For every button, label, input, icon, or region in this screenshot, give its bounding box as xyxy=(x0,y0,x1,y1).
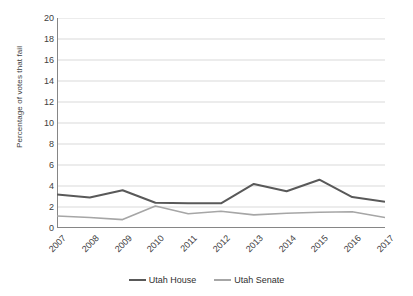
chart-legend: Utah House Utah Senate xyxy=(0,272,413,288)
x-tick-label: 2012 xyxy=(194,233,232,271)
plot-area xyxy=(57,18,385,228)
x-tick-label: 2007 xyxy=(30,233,68,271)
legend-label: Utah House xyxy=(149,275,197,285)
legend-label: Utah Senate xyxy=(234,275,284,285)
x-tick-label: 2014 xyxy=(259,233,297,271)
legend-swatch-icon xyxy=(214,279,231,281)
line-chart: Percentage of votes that fail 20 18 16 1… xyxy=(0,0,413,296)
y-tick-label: 12 xyxy=(30,98,54,107)
series-line-utah-senate xyxy=(57,206,385,220)
series-line-utah-house xyxy=(57,180,385,204)
y-axis-title: Percentage of votes that fail xyxy=(9,0,31,202)
x-tick-label: 2009 xyxy=(95,233,133,271)
y-tick-label: 18 xyxy=(30,35,54,44)
x-tick-label: 2017 xyxy=(358,233,396,271)
gridlines xyxy=(57,18,385,228)
legend-swatch-icon xyxy=(129,279,146,281)
y-tick-label: 6 xyxy=(30,161,54,170)
legend-item-utah-senate[interactable]: Utah Senate xyxy=(214,275,284,285)
y-tick-label: 10 xyxy=(30,119,54,128)
x-tick-label: 2010 xyxy=(128,233,166,271)
y-tick-label: 20 xyxy=(30,14,54,23)
x-tick-label: 2016 xyxy=(325,233,363,271)
x-tick-label: 2015 xyxy=(292,233,330,271)
y-tick-label: 16 xyxy=(30,56,54,65)
x-tick-label: 2013 xyxy=(227,233,265,271)
x-tick-label: 2008 xyxy=(63,233,101,271)
legend-item-utah-house[interactable]: Utah House xyxy=(129,275,197,285)
y-tick-label: 4 xyxy=(30,182,54,191)
y-tick-label: 2 xyxy=(30,203,54,212)
plot-svg xyxy=(57,18,385,228)
y-tick-label: 14 xyxy=(30,77,54,86)
y-tick-label: 8 xyxy=(30,140,54,149)
x-tick-label: 2011 xyxy=(161,233,199,271)
x-axis-tick-labels: 2007200820092010201120122013201420152016… xyxy=(0,230,413,266)
